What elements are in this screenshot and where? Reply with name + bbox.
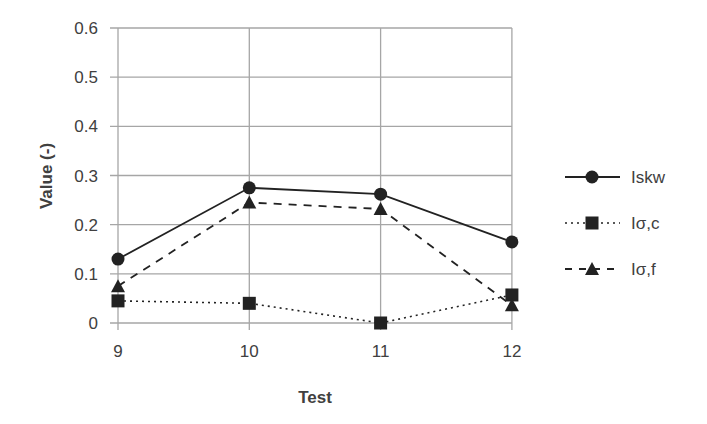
legend: IskwIσ,cIσ,f (565, 168, 666, 279)
triangle-marker (111, 279, 125, 292)
y-tick-label: 0.5 (74, 68, 98, 87)
series-triangle (111, 196, 519, 312)
triangle-marker (374, 202, 388, 215)
legend-label: Iskw (631, 168, 666, 187)
y-axis-ticks: 00.10.20.30.40.50.6 (74, 19, 98, 333)
x-tick-label: 12 (502, 342, 521, 361)
y-tick-label: 0.6 (74, 19, 98, 38)
series-line (118, 203, 512, 306)
legend-item: Iσ,c (565, 214, 660, 233)
series-line (118, 188, 512, 259)
square-marker (112, 294, 125, 307)
square-marker (243, 297, 256, 310)
legend-label: Iσ,c (631, 214, 660, 233)
triangle-marker (242, 196, 256, 209)
grid (110, 28, 512, 330)
line-chart: 00.10.20.30.40.50.6 9101112 Test Value (… (0, 0, 707, 424)
x-tick-label: 9 (113, 342, 122, 361)
legend-label: Iσ,f (631, 260, 656, 279)
y-tick-label: 0.1 (74, 265, 98, 284)
y-axis-title: Value (-) (37, 143, 56, 209)
y-tick-label: 0.4 (74, 117, 98, 136)
square-marker (586, 217, 599, 230)
circle-marker (112, 253, 125, 266)
circle-marker (586, 171, 599, 184)
legend-item: Iskw (565, 168, 666, 187)
circle-marker (243, 181, 256, 194)
y-tick-label: 0 (89, 314, 98, 333)
x-tick-label: 11 (372, 342, 390, 361)
series-line (118, 295, 512, 323)
x-axis-ticks: 9101112 (113, 342, 521, 361)
y-tick-label: 0.2 (74, 216, 98, 235)
series-group (111, 181, 519, 329)
square-marker (374, 317, 387, 330)
x-axis-title: Test (298, 388, 332, 407)
series-circle (112, 181, 519, 265)
x-tick-label: 10 (240, 342, 259, 361)
y-tick-label: 0.3 (74, 167, 98, 186)
circle-marker (374, 188, 387, 201)
circle-marker (505, 235, 518, 248)
legend-item: Iσ,f (565, 260, 656, 279)
